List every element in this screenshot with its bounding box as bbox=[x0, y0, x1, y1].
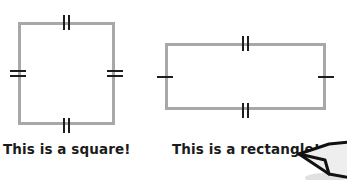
square-left-tick-2 bbox=[10, 75, 26, 77]
rectangle-left-tick-1 bbox=[157, 76, 173, 78]
square-bottom-tick-2 bbox=[68, 118, 70, 133]
rectangle-bottom-tick-2 bbox=[247, 103, 249, 118]
rectangle-bottom-tick-1 bbox=[242, 103, 244, 118]
square-bottom-tick-1 bbox=[63, 118, 65, 133]
rectangle-top-tick-1 bbox=[242, 36, 244, 51]
rectangle-right-tick-1 bbox=[318, 76, 334, 78]
illustration-canvas: This is a square! This is a rectangle! bbox=[0, 0, 347, 180]
square-top-tick-1 bbox=[63, 15, 65, 30]
square-left-tick-1 bbox=[10, 70, 26, 72]
square-shape bbox=[18, 22, 115, 125]
square-right-tick-1 bbox=[107, 70, 123, 72]
square-caption: This is a square! bbox=[3, 143, 130, 157]
rectangle-caption: This is a rectangle! bbox=[172, 143, 320, 157]
rectangle-top-tick-2 bbox=[247, 36, 249, 51]
square-top-tick-2 bbox=[68, 15, 70, 30]
square-right-tick-2 bbox=[107, 75, 123, 77]
rectangle-shape bbox=[165, 43, 326, 110]
